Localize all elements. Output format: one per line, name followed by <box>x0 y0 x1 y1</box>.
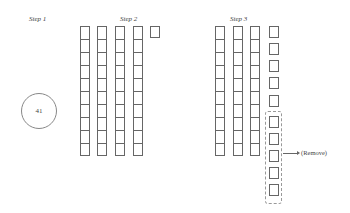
rod-cell <box>116 92 124 105</box>
rod-cell <box>234 118 242 131</box>
unit-block <box>269 43 279 55</box>
remove-annotation: (Remove) <box>301 149 327 156</box>
rod-cell <box>116 118 124 131</box>
rod-cell <box>251 131 259 144</box>
rod-cell <box>251 144 259 157</box>
rod-cell <box>81 79 89 92</box>
rod-cell <box>134 53 142 66</box>
rod-cell <box>216 144 224 157</box>
rod-cell <box>216 40 224 53</box>
remove-arrow-line <box>283 153 298 154</box>
rod-cell <box>116 40 124 53</box>
rod-cell <box>134 118 142 131</box>
unit-block <box>150 26 160 38</box>
rod-cell <box>98 27 106 40</box>
rod-cell <box>251 92 259 105</box>
remove-group-outline <box>265 111 282 204</box>
rod-cell <box>98 66 106 79</box>
rod-cell <box>98 79 106 92</box>
step-2-label: Step 2 <box>120 15 137 23</box>
unit-block <box>269 60 279 72</box>
rod-cell <box>81 40 89 53</box>
rod-cell <box>251 66 259 79</box>
rod-cell <box>98 118 106 131</box>
rod-cell <box>81 92 89 105</box>
rod-cell <box>234 131 242 144</box>
rod-cell <box>98 144 106 157</box>
rod-cell <box>216 105 224 118</box>
ten-rod <box>250 26 260 156</box>
rod-cell <box>134 66 142 79</box>
rod-cell <box>134 144 142 157</box>
rod-cell <box>234 92 242 105</box>
ten-rod <box>97 26 107 156</box>
rod-cell <box>251 53 259 66</box>
unit-block <box>269 77 279 89</box>
rod-cell <box>98 53 106 66</box>
rod-cell <box>116 105 124 118</box>
rod-cell <box>81 27 89 40</box>
rod-cell <box>234 79 242 92</box>
rod-cell <box>234 144 242 157</box>
rod-cell <box>81 53 89 66</box>
step-3-label: Step 3 <box>230 15 247 23</box>
rod-cell <box>216 92 224 105</box>
rod-cell <box>251 105 259 118</box>
rod-cell <box>216 66 224 79</box>
rod-cell <box>134 131 142 144</box>
rod-cell <box>134 79 142 92</box>
circle-value: 41 <box>36 107 43 115</box>
rod-cell <box>134 92 142 105</box>
rod-cell <box>134 40 142 53</box>
rod-cell <box>251 118 259 131</box>
rod-cell <box>116 66 124 79</box>
rod-cell <box>216 131 224 144</box>
ten-rod <box>233 26 243 156</box>
rod-cell <box>81 105 89 118</box>
ten-rod <box>115 26 125 156</box>
ten-rod <box>133 26 143 156</box>
rod-cell <box>98 105 106 118</box>
rod-cell <box>116 79 124 92</box>
rod-cell <box>98 40 106 53</box>
unit-block <box>269 95 279 107</box>
ten-rod <box>215 26 225 156</box>
number-circle: 41 <box>21 93 57 129</box>
rod-cell <box>98 92 106 105</box>
rod-cell <box>116 53 124 66</box>
rod-cell <box>251 79 259 92</box>
step-1-label: Step 1 <box>29 15 46 23</box>
rod-cell <box>98 131 106 144</box>
rod-cell <box>234 105 242 118</box>
ten-rod <box>80 26 90 156</box>
rod-cell <box>81 118 89 131</box>
rod-cell <box>134 105 142 118</box>
rod-cell <box>251 27 259 40</box>
unit-block <box>269 26 279 38</box>
rod-cell <box>81 131 89 144</box>
rod-cell <box>134 27 142 40</box>
rod-cell <box>251 40 259 53</box>
rod-cell <box>81 66 89 79</box>
rod-cell <box>116 131 124 144</box>
rod-cell <box>216 118 224 131</box>
rod-cell <box>116 144 124 157</box>
rod-cell <box>116 27 124 40</box>
rod-cell <box>234 66 242 79</box>
remove-arrow-head <box>297 151 300 155</box>
rod-cell <box>234 53 242 66</box>
rod-cell <box>216 27 224 40</box>
rod-cell <box>216 79 224 92</box>
rod-cell <box>81 144 89 157</box>
rod-cell <box>216 53 224 66</box>
rod-cell <box>234 27 242 40</box>
rod-cell <box>234 40 242 53</box>
